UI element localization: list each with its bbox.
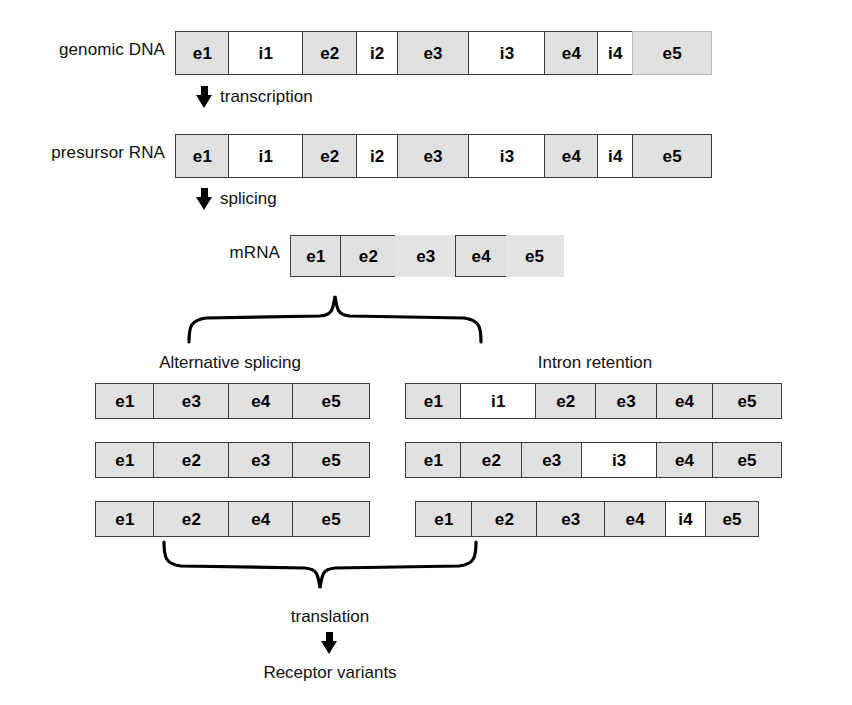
arrow-down-icon [196, 86, 213, 108]
intron-retention-variant-1-segment-e2: e2 [535, 383, 597, 419]
row-label-precursor-rna: presursor RNA [30, 143, 165, 163]
section-heading-alternative-splicing: Alternative splicing [110, 353, 350, 373]
row-label-genomic-dna: genomic DNA [30, 40, 165, 60]
alt-splice-variant-3-segment-e5: e5 [292, 501, 370, 537]
mrna-segment-e2: e2 [340, 235, 396, 277]
output-label-receptor-variants: Receptor variants [230, 663, 430, 683]
intron-retention-variant-2-segment-e3: e3 [521, 442, 583, 478]
genomic-dna-segment-e2: e2 [302, 31, 358, 75]
precursor-rna-segment-e5: e5 [632, 134, 712, 178]
precursor-rna-segment-i4: i4 [597, 134, 634, 178]
precursor-rna-segment-i3: i3 [468, 134, 546, 178]
alt-splice-variant-2-segment-e2: e2 [153, 442, 229, 478]
genomic-dna-segment-e3: e3 [397, 31, 470, 75]
intron-retention-variant-2-segment-e4: e4 [656, 442, 714, 478]
intron-retention-variant-2-segment-e2: e2 [460, 442, 522, 478]
alt-splice-variant-3-segment-e1: e1 [95, 501, 155, 537]
variant-row-alternative-splicing-2: e1e2e3e5 [95, 442, 370, 478]
intron-retention-variant-1-segment-e5: e5 [712, 383, 782, 419]
figure-canvas: genomic DNA e1i1e2i2e3i3e4i4e5 transcrip… [0, 0, 852, 705]
strand-genomic-dna: e1i1e2i2e3i3e4i4e5 [175, 31, 712, 75]
step-splicing-label: splicing [220, 189, 277, 209]
brace-split-top [180, 282, 490, 344]
precursor-rna-segment-e4: e4 [544, 134, 598, 178]
row-label-mrna: mRNA [155, 243, 280, 263]
precursor-rna-segment-e3: e3 [397, 134, 470, 178]
alt-splice-variant-2-segment-e1: e1 [95, 442, 155, 478]
mrna-segment-e4: e4 [455, 235, 507, 277]
genomic-dna-segment-e5: e5 [632, 31, 712, 75]
intron-retention-variant-2-segment-e1: e1 [405, 442, 462, 478]
genomic-dna-segment-i1: i1 [228, 31, 303, 75]
strand-mrna: e1e2e3e4e5 [290, 235, 564, 277]
section-heading-intron-retention: Intron retention [480, 353, 710, 373]
alt-splice-variant-1-segment-e1: e1 [95, 383, 155, 419]
precursor-rna-segment-i1: i1 [228, 134, 303, 178]
intron-retention-variant-3-segment-e4: e4 [604, 501, 666, 537]
step-transcription-label: transcription [220, 87, 313, 107]
intron-retention-variant-1-segment-e3: e3 [595, 383, 657, 419]
alt-splice-variant-1-segment-e4: e4 [228, 383, 294, 419]
variant-row-intron-retention-1: e1i1e2e3e4e5 [405, 383, 782, 419]
intron-retention-variant-1-segment-e4: e4 [656, 383, 714, 419]
strand-precursor-rna: e1i1e2i2e3i3e4i4e5 [175, 134, 712, 178]
intron-retention-variant-2-segment-i3: i3 [581, 442, 657, 478]
alt-splice-variant-3-segment-e4: e4 [228, 501, 294, 537]
genomic-dna-segment-e1: e1 [175, 31, 230, 75]
precursor-rna-segment-e1: e1 [175, 134, 230, 178]
intron-retention-variant-3-segment-e3: e3 [536, 501, 606, 537]
alt-splice-variant-1-segment-e5: e5 [292, 383, 370, 419]
variant-row-alternative-splicing-3: e1e2e4e5 [95, 501, 370, 537]
genomic-dna-segment-i2: i2 [356, 31, 398, 75]
alt-splice-variant-2-segment-e5: e5 [292, 442, 370, 478]
mrna-segment-e5: e5 [506, 235, 564, 277]
mrna-segment-e1: e1 [290, 235, 342, 277]
precursor-rna-segment-e2: e2 [302, 134, 358, 178]
alt-splice-variant-1-segment-e3: e3 [153, 383, 229, 419]
variant-row-intron-retention-3: e1e2e3e4i4e5 [415, 501, 759, 537]
step-translation-label: translation [255, 607, 405, 627]
precursor-rna-segment-i2: i2 [356, 134, 398, 178]
alt-splice-variant-3-segment-e2: e2 [153, 501, 229, 537]
intron-retention-variant-3-segment-i4: i4 [665, 501, 707, 537]
intron-retention-variant-2-segment-e5: e5 [712, 442, 782, 478]
arrow-down-icon [196, 188, 213, 210]
mrna-segment-e3: e3 [395, 235, 457, 277]
genomic-dna-segment-e4: e4 [544, 31, 598, 75]
step-splicing: splicing [196, 188, 277, 210]
intron-retention-variant-1-segment-e1: e1 [405, 383, 462, 419]
intron-retention-variant-3-segment-e5: e5 [705, 501, 759, 537]
variant-row-intron-retention-2: e1e2e3i3e4e5 [405, 442, 782, 478]
intron-retention-variant-3-segment-e2: e2 [471, 501, 537, 537]
intron-retention-variant-1-segment-i1: i1 [460, 383, 536, 419]
brace-merge-bottom [155, 540, 485, 602]
genomic-dna-segment-i3: i3 [468, 31, 546, 75]
variant-row-alternative-splicing-1: e1e3e4e5 [95, 383, 370, 419]
genomic-dna-segment-i4: i4 [597, 31, 634, 75]
step-transcription: transcription [196, 86, 313, 108]
alt-splice-variant-2-segment-e3: e3 [228, 442, 294, 478]
intron-retention-variant-3-segment-e1: e1 [415, 501, 473, 537]
